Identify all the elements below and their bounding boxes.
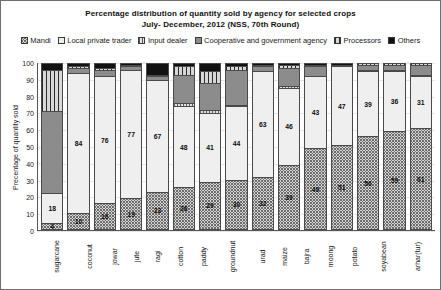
bar-segment[interactable]: 51 — [331, 145, 353, 230]
bar-segment[interactable]: 4 — [41, 223, 63, 230]
bar-segment[interactable]: 29 — [199, 182, 221, 230]
bar-segment[interactable] — [278, 63, 300, 65]
bar-segment[interactable] — [94, 63, 116, 68]
bar-segment[interactable] — [120, 65, 142, 67]
bar-segment[interactable] — [410, 65, 432, 75]
bar-column[interactable]: 6131 — [410, 63, 432, 230]
bar-segment[interactable] — [67, 68, 89, 73]
bar-segment[interactable]: 36 — [383, 71, 405, 131]
legend-label-mandi: Mandi — [30, 36, 50, 45]
bar-segment[interactable] — [278, 68, 300, 86]
bar-segment[interactable] — [278, 65, 300, 68]
bar-column[interactable]: 2941 — [199, 63, 221, 230]
bar-segment[interactable]: 39 — [278, 165, 300, 230]
bar-segment[interactable] — [199, 71, 221, 83]
bar-segment[interactable]: 39 — [357, 71, 379, 136]
bar-segment[interactable]: 23 — [146, 192, 168, 230]
bar-segment[interactable] — [225, 63, 247, 66]
bar-segment[interactable]: 76 — [94, 76, 116, 203]
bar-column[interactable]: 3946 — [278, 63, 300, 230]
bar-segment[interactable]: 43 — [304, 76, 326, 148]
bar-segment[interactable] — [199, 63, 221, 71]
bar-column[interactable]: 4943 — [304, 63, 326, 230]
bar-column[interactable]: 1977 — [120, 63, 142, 230]
bar-segment[interactable] — [41, 70, 63, 112]
bar-segment[interactable] — [199, 83, 221, 110]
bar-segment[interactable]: 18 — [41, 193, 63, 223]
bar-column[interactable]: 1084 — [67, 63, 89, 230]
bar-value-label: 36 — [384, 72, 404, 131]
bar-segment[interactable] — [199, 110, 221, 113]
bar-segment[interactable] — [225, 66, 247, 69]
bar-segment[interactable] — [146, 76, 168, 79]
bar-segment[interactable]: 31 — [410, 76, 432, 128]
bar-segment[interactable] — [146, 75, 168, 77]
bar-column[interactable]: 5936 — [383, 63, 405, 230]
bar-segment[interactable]: 84 — [67, 73, 89, 213]
bar-segment[interactable] — [173, 63, 195, 66]
bar-segment[interactable] — [383, 70, 405, 72]
bar-segment[interactable]: 48 — [173, 106, 195, 186]
bar-column[interactable]: 3263 — [252, 63, 274, 230]
bar-segment[interactable]: 61 — [410, 128, 432, 230]
bar-segment[interactable] — [304, 63, 326, 65]
bar-segment[interactable] — [67, 66, 89, 68]
bar-segment[interactable] — [173, 75, 195, 103]
bar-segment[interactable]: 32 — [252, 177, 274, 230]
bar-segment[interactable]: 59 — [383, 131, 405, 230]
bar-value-label: 46 — [279, 89, 299, 165]
bar-segment[interactable]: 77 — [120, 70, 142, 199]
bar-segment[interactable] — [331, 63, 353, 65]
bar-segment[interactable] — [252, 65, 274, 67]
bar-value-label: 32 — [253, 178, 273, 229]
bar-value-label: 44 — [226, 107, 246, 179]
bar-segment[interactable] — [357, 70, 379, 72]
bar-segment[interactable] — [173, 66, 195, 74]
bar-column[interactable]: 5147 — [331, 63, 353, 230]
bar-segment[interactable] — [252, 63, 274, 65]
bar-segment[interactable]: 44 — [225, 106, 247, 179]
bar-segment[interactable] — [225, 70, 247, 105]
bar-segment[interactable]: 41 — [199, 113, 221, 181]
bar-segment[interactable] — [146, 63, 168, 75]
bar-segment[interactable] — [252, 66, 274, 71]
bar-segment[interactable]: 30 — [225, 180, 247, 230]
bar-value-label: 61 — [411, 129, 431, 229]
bar-column[interactable]: 3044 — [225, 63, 247, 230]
bar-segment[interactable]: 46 — [278, 88, 300, 165]
bar-segment[interactable]: 47 — [331, 66, 353, 144]
bar-segment[interactable] — [304, 66, 326, 76]
bar-segment[interactable] — [357, 65, 379, 70]
bar-segment[interactable] — [410, 75, 432, 77]
bar-segment[interactable] — [120, 66, 142, 69]
bar-segment[interactable]: 63 — [252, 71, 274, 176]
bar-segment[interactable]: 19 — [120, 198, 142, 230]
bar-segment[interactable] — [41, 63, 63, 70]
bar-segment[interactable] — [94, 70, 116, 77]
bar-segment[interactable] — [357, 63, 379, 65]
bar-column[interactable]: 418 — [41, 63, 63, 230]
bar-segment[interactable]: 10 — [67, 213, 89, 230]
bar-segment[interactable] — [331, 65, 353, 67]
bar-segment[interactable] — [173, 103, 195, 106]
bar-segment[interactable] — [225, 105, 247, 107]
bar-column[interactable]: 2367 — [146, 63, 168, 230]
bar-column[interactable]: 2648 — [173, 63, 195, 230]
bar-segment[interactable] — [383, 65, 405, 70]
bar-segment[interactable] — [41, 111, 63, 193]
bar-segment[interactable]: 49 — [304, 148, 326, 230]
bar-segment[interactable] — [120, 63, 142, 65]
bar-segment[interactable] — [304, 65, 326, 67]
bar-segment[interactable]: 26 — [173, 187, 195, 230]
bar-segment[interactable]: 16 — [94, 203, 116, 230]
bar-segment[interactable] — [410, 63, 432, 65]
bar-segment[interactable] — [94, 68, 116, 70]
bar-column[interactable]: 5639 — [357, 63, 379, 230]
bar-segment[interactable]: 56 — [357, 136, 379, 230]
legend-label-cooperative-and-government-agency: Cooperative and government agency — [204, 36, 327, 45]
bar-segment[interactable] — [278, 86, 300, 88]
bar-segment[interactable] — [67, 63, 89, 66]
bar-segment[interactable]: 67 — [146, 80, 168, 192]
bar-segment[interactable] — [383, 63, 405, 65]
bar-column[interactable]: 1676 — [94, 63, 116, 230]
